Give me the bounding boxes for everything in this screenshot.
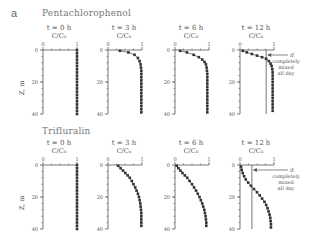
data-point [140,95,143,98]
data-point [240,165,243,168]
data-point [140,92,143,95]
x-tick-label: 0 [238,156,241,162]
x-tick-label: 0 [41,41,44,47]
data-point [193,186,196,189]
data-point [132,183,135,186]
data-point [203,209,206,212]
data-point [140,108,143,111]
data-point [76,58,79,61]
data-point [271,110,274,113]
data-point [76,106,79,109]
data-point [140,215,143,218]
data-point [76,52,79,55]
y-tick-label: 40 [97,111,103,117]
data-point [271,103,274,106]
data-point [119,50,122,53]
data-point [76,167,79,170]
data-point [247,181,250,184]
data-point [76,97,79,100]
panel-title: t = 3 h [112,139,137,147]
data-point [206,95,209,98]
x-tick-label: 1 [140,41,143,47]
x-tick-label: 0 [173,41,176,47]
y-tick-label: 40 [229,111,235,117]
data-point [76,55,79,58]
x-tick-label: 0 [106,41,109,47]
x-axis-label: C/C₀ [184,147,199,155]
profile-line [241,167,271,228]
data-point [206,92,209,95]
data-point [256,54,259,57]
data-point [198,196,201,199]
data-point [204,212,207,215]
data-point [269,220,272,223]
data-point [76,202,79,205]
panel-title: t = 12 h [242,24,271,32]
y-tick-label: 20 [229,194,235,200]
data-point [256,191,259,194]
data-point [76,186,79,189]
data-point [206,82,209,85]
data-point [76,110,79,113]
y-tick-label: 40 [164,226,170,232]
data-point [198,56,201,59]
y-tick-label: 0 [167,162,170,168]
y-tick-label: 20 [229,79,235,85]
data-point [271,74,274,77]
data-point [206,70,209,73]
data-point [263,201,266,204]
data-point [76,218,79,221]
data-point [186,51,189,54]
data-point [76,209,79,212]
data-point [268,213,271,216]
data-point [271,84,274,87]
x-tick-label: 1 [207,41,210,47]
panel-title: t = 6 h [179,139,204,147]
x-tick-label: 0 [106,156,109,162]
data-point [138,196,141,199]
y-tick-label: 20 [164,194,170,200]
data-point [76,180,79,183]
data-point [76,170,79,173]
y-tick-label: 20 [97,79,103,85]
data-point [201,202,204,205]
data-point [188,180,191,183]
data-point [201,58,204,61]
data-point [76,84,79,87]
data-point [205,225,208,228]
data-point [135,189,138,192]
data-point [76,215,79,218]
data-point [76,177,79,180]
y-tick-label: 0 [167,47,170,53]
data-point [76,49,79,52]
data-point [271,94,274,97]
data-point [271,97,274,100]
data-point [270,65,273,68]
data-point [133,54,136,57]
data-point [76,225,79,228]
data-point [126,174,129,177]
data-point [265,204,268,207]
data-point [244,178,247,181]
x-axis-label: C/C₀ [249,147,264,155]
data-point [206,86,209,89]
data-point [206,89,209,92]
data-point [131,180,134,183]
x-axis-label: C/C₀ [184,32,199,40]
data-point [270,223,273,226]
data-point [76,78,79,81]
x-axis-label: C/C₀ [52,32,67,40]
chart-area: t = 0 hC/C₀0102040Z, mt = 3 hC/C₀0102040… [0,0,320,244]
y-tick-label: 20 [32,79,38,85]
data-point [76,199,79,202]
y-tick-label: 20 [97,194,103,200]
svg-text:all day: all day [278,185,295,192]
data-point [204,215,207,218]
data-point [76,228,79,231]
data-point [76,62,79,65]
data-point [205,221,208,224]
profile-line [243,51,273,111]
panel-title: t = 12 h [242,139,271,147]
y-tick-label: 20 [32,194,38,200]
data-point [140,79,143,82]
